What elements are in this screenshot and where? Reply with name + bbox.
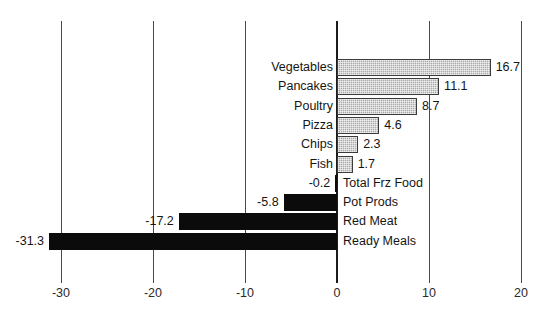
x-tick-label: -20 <box>144 286 162 300</box>
x-tick-label: -30 <box>52 286 70 300</box>
x-axis: -30-20-1001020 <box>0 0 551 317</box>
x-tick-label: 10 <box>422 286 436 300</box>
x-tick-label: 0 <box>334 286 341 300</box>
bar-chart: 16.7Vegetables11.1Pancakes8.7Poultry4.6P… <box>0 0 551 317</box>
x-tick-label: -10 <box>236 286 254 300</box>
x-tick-label: 20 <box>514 286 528 300</box>
